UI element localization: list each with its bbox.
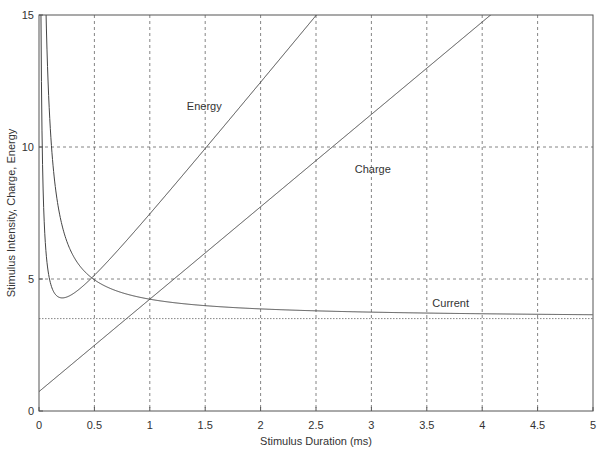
x-tick-label: 3 — [368, 419, 374, 431]
x-tick-label: 2.5 — [308, 419, 323, 431]
y-axis-label: Stimulus Intensity, Charge, Energy — [5, 128, 17, 297]
grid-lines — [39, 15, 593, 411]
x-tick-label: 1 — [147, 419, 153, 431]
y-tick-label: 10 — [22, 141, 34, 153]
charge-curve — [39, 0, 554, 392]
x-tick-label: 3.5 — [419, 419, 434, 431]
x-axis-label: Stimulus Duration (ms) — [260, 435, 372, 447]
y-tick-label: 5 — [28, 273, 34, 285]
chart: 00.511.522.533.544.55051015 Stimulus Dur… — [0, 0, 603, 457]
axis-ticks: 00.511.522.533.544.55051015 — [22, 9, 596, 431]
y-tick-label: 0 — [28, 405, 34, 417]
energy-curve-label: Energy — [187, 100, 222, 112]
x-tick-label: 2 — [258, 419, 264, 431]
x-tick-label: 0 — [36, 419, 42, 431]
y-tick-label: 15 — [22, 9, 34, 21]
current-curve-label: Current — [432, 297, 469, 309]
x-tick-label: 4 — [479, 419, 485, 431]
energy-curve — [41, 0, 360, 298]
x-tick-label: 5 — [590, 419, 596, 431]
x-tick-label: 0.5 — [87, 419, 102, 431]
x-tick-label: 1.5 — [198, 419, 213, 431]
charge-curve-label: Charge — [355, 163, 391, 175]
x-tick-label: 4.5 — [530, 419, 545, 431]
current-curve — [45, 0, 592, 315]
